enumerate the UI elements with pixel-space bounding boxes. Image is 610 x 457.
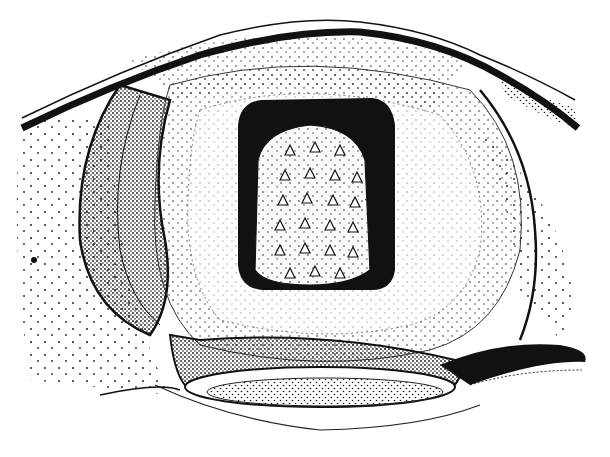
illustration	[0, 0, 610, 457]
stipple-dot	[31, 257, 37, 263]
right-fold	[440, 344, 586, 385]
